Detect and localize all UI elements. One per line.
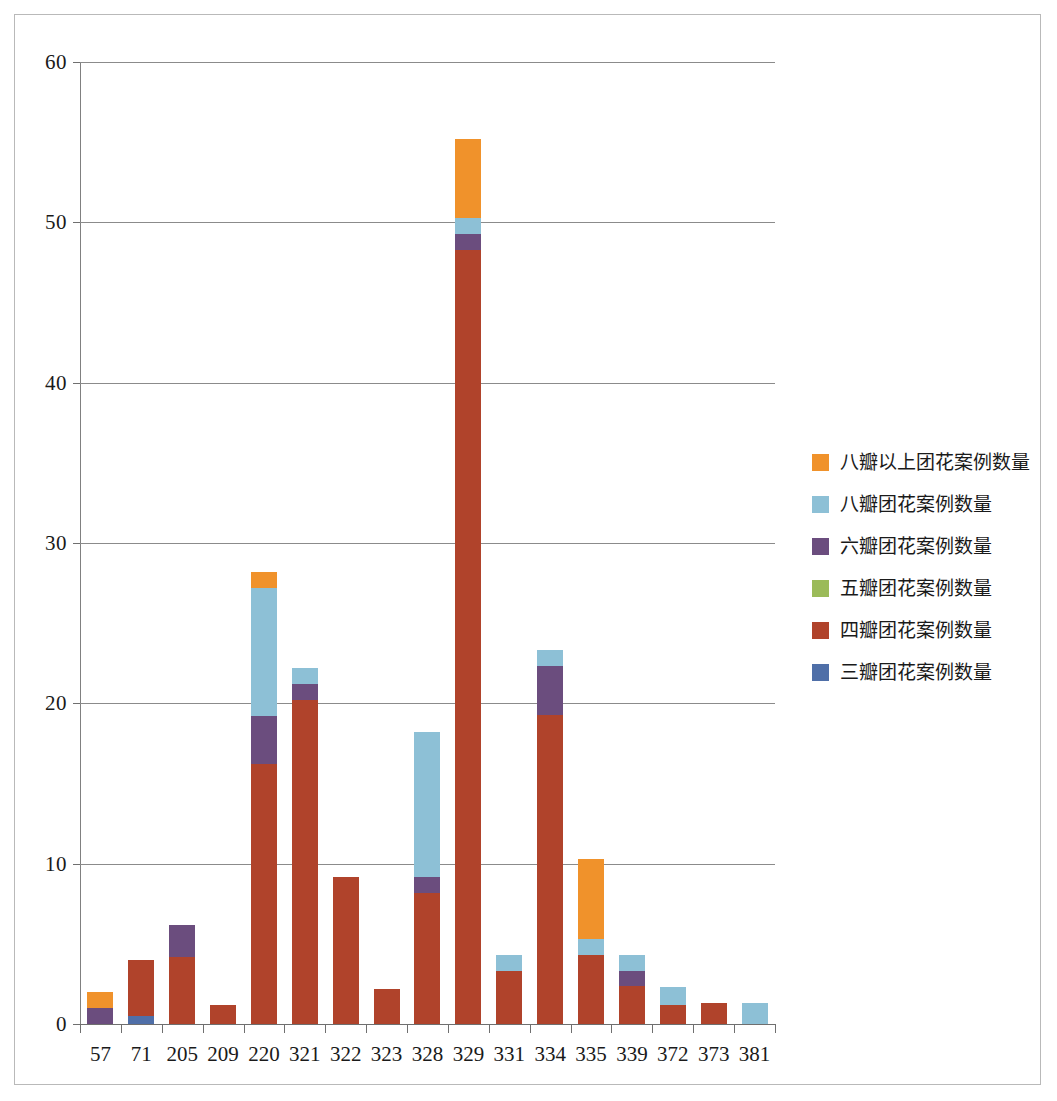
bar-segment[interactable] [537,666,563,714]
bar-segment[interactable] [455,218,481,234]
bar-stack[interactable] [414,732,440,1024]
legend-item[interactable]: 六瓣团花案例数量 [812,525,1042,567]
bar-segment[interactable] [414,877,440,893]
bar-slot[interactable] [407,62,448,1024]
bar-segment[interactable] [210,1005,236,1024]
bar-segment[interactable] [496,971,522,1024]
bar-segment[interactable] [455,250,481,1024]
y-axis-label: 10 [45,851,67,876]
bar-stack[interactable] [660,987,686,1024]
bar-segment[interactable] [292,668,318,684]
bar-slot[interactable] [530,62,571,1024]
bar-stack[interactable] [87,992,113,1024]
legend-swatch-icon [812,580,829,597]
x-axis-label: 335 [575,1042,607,1067]
bar-segment[interactable] [578,955,604,1024]
bar-segment[interactable] [537,650,563,666]
legend-item[interactable]: 八瓣团花案例数量 [812,483,1042,525]
bar-segment[interactable] [455,234,481,250]
bar-segment[interactable] [251,588,277,716]
bar-segment[interactable] [660,987,686,1005]
bar-stack[interactable] [251,572,277,1024]
bar-segment[interactable] [660,1005,686,1024]
y-axis-label: 0 [56,1012,67,1037]
bar-stack[interactable] [169,925,195,1024]
bar-stack[interactable] [210,1005,236,1024]
legend-item-label: 八瓣以上团花案例数量 [840,453,1030,472]
bar-segment[interactable] [701,1003,727,1024]
x-axis-label: 334 [534,1042,566,1067]
bar-slot[interactable] [162,62,203,1024]
bar-slot[interactable] [693,62,734,1024]
bar-segment[interactable] [619,971,645,985]
bar-stack[interactable] [333,877,359,1025]
bar-segment[interactable] [619,955,645,971]
bar-segment[interactable] [292,700,318,1024]
bar-segment[interactable] [578,859,604,939]
bar-segment[interactable] [128,960,154,1016]
bar-slot[interactable] [325,62,366,1024]
bar-segment[interactable] [414,732,440,876]
x-axis-line [80,1024,775,1025]
bar-segment[interactable] [537,715,563,1024]
bar-slot[interactable] [734,62,775,1024]
bar-segment[interactable] [128,1016,154,1024]
bar-stack[interactable] [455,139,481,1024]
bar-slot[interactable] [284,62,325,1024]
bar-slot[interactable] [366,62,407,1024]
bar-stack[interactable] [537,650,563,1024]
bar-segment[interactable] [251,764,277,1024]
bar-segment[interactable] [251,716,277,764]
bar-slot[interactable] [203,62,244,1024]
legend-item[interactable]: 四瓣团花案例数量 [812,609,1042,651]
bar-series-layer [80,62,775,1024]
bar-segment[interactable] [87,1008,113,1024]
x-tick [775,1024,776,1033]
bar-segment[interactable] [333,877,359,1025]
legend-swatch-icon [812,622,829,639]
bar-slot[interactable] [611,62,652,1024]
x-tick [121,1024,122,1033]
bar-stack[interactable] [619,955,645,1024]
x-axis-label: 71 [131,1042,152,1067]
bar-segment[interactable] [169,957,195,1024]
bar-segment[interactable] [251,572,277,588]
bar-stack[interactable] [128,960,154,1024]
legend-item[interactable]: 八瓣以上团花案例数量 [812,441,1042,483]
bar-segment[interactable] [414,893,440,1024]
legend-item[interactable]: 三瓣团花案例数量 [812,651,1042,693]
legend-item[interactable]: 五瓣团花案例数量 [812,567,1042,609]
bar-slot[interactable] [571,62,612,1024]
x-axis-label: 322 [330,1042,362,1067]
y-axis-label: 20 [45,691,67,716]
bar-stack[interactable] [374,989,400,1024]
x-tick [325,1024,326,1033]
bar-stack[interactable] [742,1003,768,1024]
x-axis-label: 381 [739,1042,771,1067]
bar-segment[interactable] [619,986,645,1024]
bar-slot[interactable] [652,62,693,1024]
bar-segment[interactable] [374,989,400,1024]
y-tick-0 [73,1024,80,1025]
x-axis-label: 372 [657,1042,689,1067]
x-axis-label: 323 [371,1042,403,1067]
bar-stack[interactable] [496,955,522,1024]
y-tick-50 [73,222,80,223]
bar-slot[interactable] [244,62,285,1024]
bar-segment[interactable] [169,925,195,957]
bar-segment[interactable] [292,684,318,700]
bar-stack[interactable] [578,859,604,1024]
bar-slot[interactable] [80,62,121,1024]
bar-slot[interactable] [448,62,489,1024]
chart-legend: 八瓣以上团花案例数量八瓣团花案例数量六瓣团花案例数量五瓣团花案例数量四瓣团花案例… [812,441,1042,693]
bar-segment[interactable] [87,992,113,1008]
bar-stack[interactable] [701,1003,727,1024]
bar-segment[interactable] [455,139,481,218]
x-axis-label: 331 [494,1042,526,1067]
bar-segment[interactable] [578,939,604,955]
bar-slot[interactable] [489,62,530,1024]
bar-slot[interactable] [121,62,162,1024]
bar-segment[interactable] [742,1003,768,1024]
bar-segment[interactable] [496,955,522,971]
bar-stack[interactable] [292,668,318,1024]
